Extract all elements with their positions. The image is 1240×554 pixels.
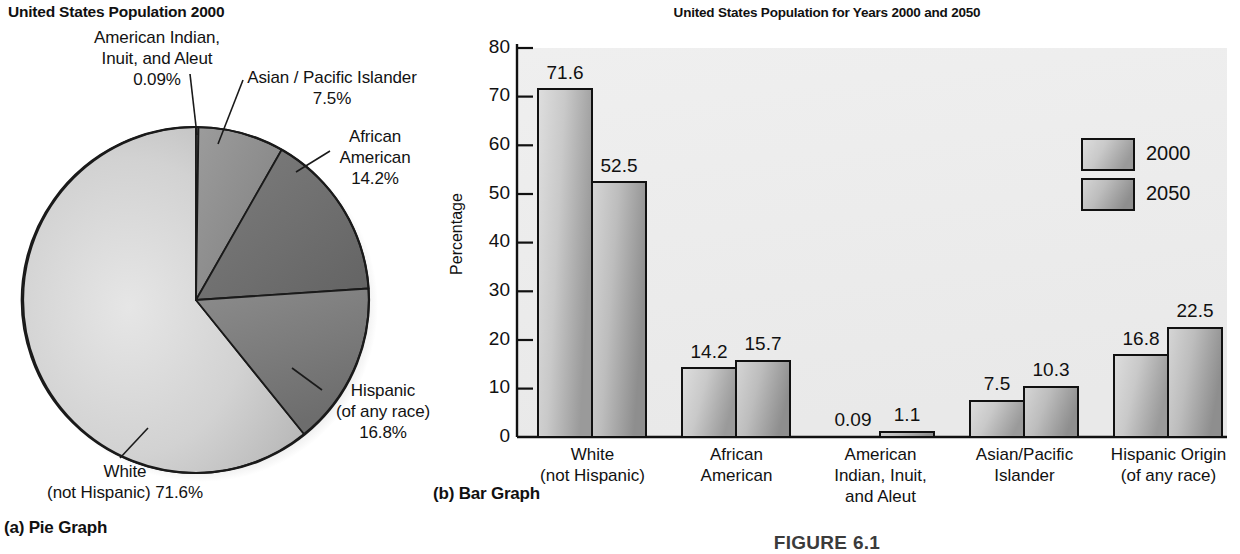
x-category-label-asian-pacific-line-1: Asian/Pacific <box>942 444 1107 465</box>
pie-label-hispanic-value: 16.8% <box>318 422 448 443</box>
bar-value-label-hispanic-2050: 22.5 <box>1163 300 1227 322</box>
pie-label-american-indian-line-2: Inuit, and Aleut <box>52 48 262 69</box>
bar-value-label-african-2050: 15.7 <box>731 333 795 355</box>
y-tick-label-0: 0 <box>470 425 510 447</box>
bar-graph-caption: (b) Bar Graph <box>433 484 540 504</box>
x-category-label-african-american-line-1: African <box>654 444 819 465</box>
pie-graph-caption: (a) Pie Graph <box>4 518 107 538</box>
y-tick-label-10: 10 <box>470 376 510 398</box>
bar-value-label-white-2050: 52.5 <box>587 155 651 177</box>
x-category-label-white: White (not Hispanic) <box>510 444 675 486</box>
pie-label-hispanic-line-2: (of any race) <box>318 401 448 422</box>
x-category-label-white-line-2: (not Hispanic) <box>510 465 675 486</box>
x-category-label-american-indian-line-3: and Aleut <box>798 486 963 507</box>
y-tick-label-40: 40 <box>470 230 510 252</box>
pie-label-asian-pacific-islander: Asian / Pacific Islander 7.5% <box>232 67 432 109</box>
pie-label-white-line-1: White <box>0 461 250 482</box>
legend-label-2000: 2000 <box>1146 142 1191 165</box>
bar-value-label-white-2000: 71.6 <box>533 62 597 84</box>
x-category-label-american-indian: American Indian, Inuit, and Aleut <box>798 444 963 507</box>
y-tick-label-50: 50 <box>470 182 510 204</box>
pie-label-american-indian-value: 0.09% <box>52 69 262 90</box>
pie-label-white: White (not Hispanic) 71.6% <box>0 461 250 503</box>
bar-value-label-asian-2050: 10.3 <box>1019 359 1083 381</box>
pie-label-african-american-value: 14.2% <box>320 168 430 189</box>
x-category-label-hispanic-origin-line-2: (of any race) <box>1086 465 1240 486</box>
pie-label-african-american-line-1: African <box>320 126 430 147</box>
x-category-label-american-indian-line-2: Indian, Inuit, <box>798 465 963 486</box>
y-tick-label-20: 20 <box>470 328 510 350</box>
pie-label-hispanic-line-1: Hispanic <box>318 380 448 401</box>
y-tick-label-60: 60 <box>470 133 510 155</box>
bar-value-label-hispanic-2000: 16.8 <box>1109 328 1173 350</box>
bar-value-label-amerind-2050: 1.1 <box>875 404 939 426</box>
legend-label-2050: 2050 <box>1146 182 1191 205</box>
x-category-label-african-american: African American <box>654 444 819 486</box>
pie-label-american-indian: American Indian, Inuit, and Aleut 0.09% <box>52 27 262 90</box>
figure-root: The Urban Poor a high rate of the urban … <box>0 0 1240 554</box>
y-tick-label-70: 70 <box>470 84 510 106</box>
x-category-label-asian-pacific: Asian/Pacific Islander <box>942 444 1107 486</box>
pie-label-white-line-2: (not Hispanic) 71.6% <box>0 482 250 503</box>
y-tick-label-30: 30 <box>470 279 510 301</box>
x-category-label-african-american-line-2: American <box>654 465 819 486</box>
pie-label-asian-pacific-islander-line-1: Asian / Pacific Islander <box>232 67 432 88</box>
x-category-label-hispanic-origin: Hispanic Origin (of any race) <box>1086 444 1240 486</box>
pie-label-african-american-line-2: American <box>320 147 430 168</box>
y-axis-label: Percentage <box>448 169 466 299</box>
pie-label-hispanic: Hispanic (of any race) 16.8% <box>318 380 448 443</box>
y-tick-label-80: 80 <box>470 36 510 58</box>
figure-number-label: FIGURE 6.1 <box>432 532 1222 554</box>
x-category-label-hispanic-origin-line-1: Hispanic Origin <box>1086 444 1240 465</box>
x-category-label-american-indian-line-1: American <box>798 444 963 465</box>
pie-label-asian-pacific-islander-value: 7.5% <box>232 88 432 109</box>
pie-label-american-indian-line-1: American Indian, <box>52 27 262 48</box>
pie-graph-panel: United States Population 2000 <box>0 0 440 554</box>
pie-label-african-american: African American 14.2% <box>320 126 430 189</box>
x-category-label-asian-pacific-line-2: Islander <box>942 465 1107 486</box>
x-category-label-white-line-1: White <box>510 444 675 465</box>
bar-graph-panel: United States Population for Years 2000 … <box>432 0 1240 554</box>
